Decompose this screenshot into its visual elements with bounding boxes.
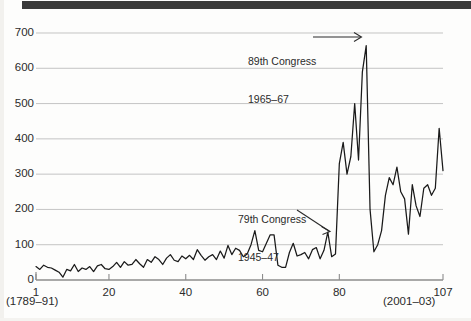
x-axis-tick-label-80: 80 [319,286,359,298]
x-axis-tick-label-40: 40 [166,286,206,298]
y-axis-tick-label-300: 300 [0,167,34,179]
annotation-congress-79-line2: 1945–47 [238,251,306,264]
y-axis-tick-label-400: 400 [0,132,34,144]
x-axis-start-sublabel: (1789–91) [6,295,58,307]
arrow-congress-89 [313,33,362,42]
x-axis-end-sublabel: (2001–03) [383,295,435,307]
annotation-congress-89: 89th Congress 1965–67 [248,30,316,130]
annotation-congress-89-line1: 89th Congress [248,55,316,68]
chart-figure: 0100200300400500600700 120406080107 (178… [0,0,471,321]
annotation-congress-79: 79th Congress 1945–47 [238,188,306,288]
y-axis-tick-label-100: 100 [0,238,34,250]
plot-area [0,0,471,321]
x-axis-tick-label-20: 20 [89,286,129,298]
y-axis-tick-label-0: 0 [0,273,34,285]
annotation-congress-79-line1: 79th Congress [238,213,306,226]
annotation-congress-89-line2: 1965–67 [248,93,316,106]
y-axis-tick-label-600: 600 [0,61,34,73]
y-axis-tick-label-500: 500 [0,97,34,109]
y-axis-tick-label-200: 200 [0,202,34,214]
y-axis-tick-label-700: 700 [0,26,34,38]
